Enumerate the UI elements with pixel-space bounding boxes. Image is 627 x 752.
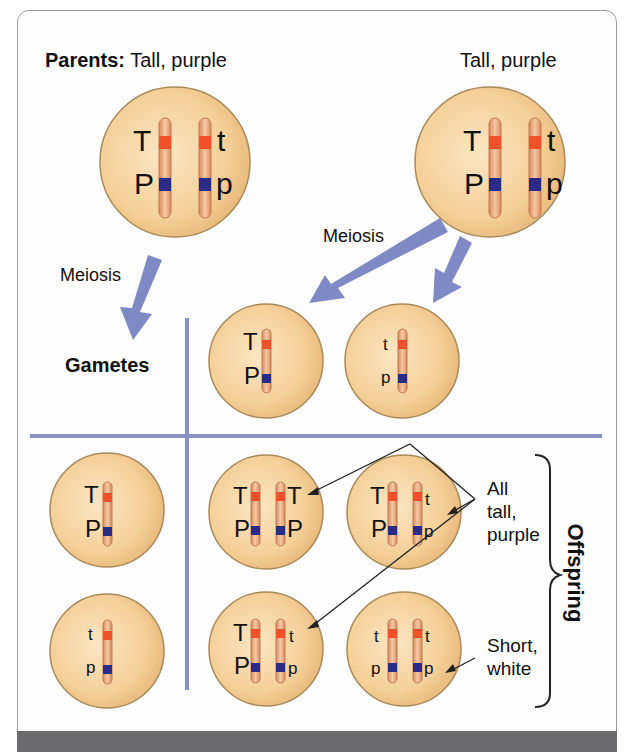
gamete-cell-top-TP [209,304,323,418]
annotation-short-white: Short, white [487,634,538,680]
allele-label: T [370,482,385,510]
allele-label: P [287,515,303,543]
allele-label: p [86,658,95,678]
allele-label: t [425,627,430,647]
offspring-cell-TTPP [209,455,323,569]
parent-cell-left [100,87,250,237]
allele-label: t [547,124,555,158]
allele-label: P [244,362,260,390]
gamete-cell-top-tp [345,304,459,418]
allele-label: T [463,124,481,158]
allele-label: t [217,124,225,158]
allele-label: t [383,335,388,355]
allele-label: P [371,515,387,543]
parents-label-right: Tall, purple [460,49,557,72]
allele-label: T [133,124,151,158]
allele-label: P [234,515,250,543]
offspring-cell-TtPp-bottom [209,592,323,706]
meiosis-label-left: Meiosis [60,265,121,286]
allele-label: p [371,659,380,679]
allele-label: P [234,652,250,680]
allele-label: t [289,627,294,647]
allele-label: P [464,167,484,201]
allele-label: p [546,167,563,201]
allele-label: P [85,515,101,543]
allele-label: p [424,659,433,679]
allele-label: p [381,368,390,388]
meiosis-label-right: Meiosis [323,226,384,247]
allele-label: t [374,627,379,647]
gametes-label: Gametes [65,354,150,377]
allele-label: p [216,167,233,201]
offspring-cell-ttpp [347,592,461,706]
allele-label: t [88,625,93,645]
allele-label: T [84,481,99,509]
allele-label: p [288,659,297,679]
annotation-all-tall-purple: All tall, purple [487,477,540,546]
parent-cell-right [415,87,565,237]
gamete-cell-left-tp [50,594,164,708]
allele-label: T [243,328,258,356]
gamete-cell-left-TP [50,453,164,567]
allele-label: T [287,482,302,510]
allele-label: T [233,619,248,647]
allele-label: p [424,522,433,542]
offspring-label: Offspring [562,518,588,628]
allele-label: P [134,167,154,201]
parents-label-left: Parents: Tall, purple [45,49,227,72]
allele-label: t [425,490,430,510]
allele-label: T [233,482,248,510]
